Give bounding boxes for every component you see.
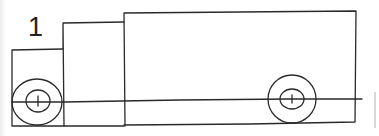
axle-line <box>12 99 362 102</box>
cab-roof-section <box>63 22 124 126</box>
cargo-box <box>124 11 356 126</box>
truck-sketch <box>0 0 379 136</box>
